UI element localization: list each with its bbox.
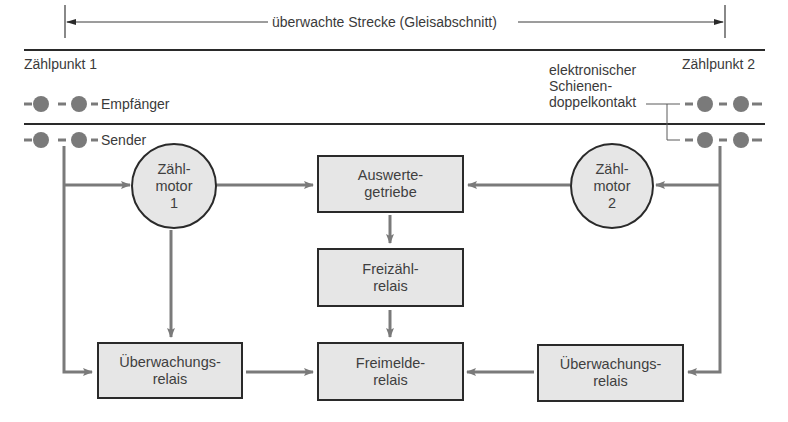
node-label: Überwachungs- bbox=[560, 356, 662, 373]
node-label: 1 bbox=[170, 195, 178, 212]
rail-contact-label: elektronischer Schienen- doppelkontakt bbox=[549, 62, 636, 110]
node-label: relais bbox=[373, 278, 408, 295]
right-receiver-sensor-2 bbox=[733, 96, 749, 112]
node-label: 2 bbox=[608, 195, 616, 212]
evaluation-gear-box: Auswerte- getriebe bbox=[317, 155, 464, 213]
node-label: Zähl- bbox=[157, 161, 190, 178]
right-receiver-sensor-1 bbox=[697, 96, 713, 112]
left-receiver-sensor-1 bbox=[33, 96, 49, 112]
counter-motor-2: Zähl- motor 2 bbox=[570, 143, 654, 229]
monitoring-relay-right-box: Überwachungs- relais bbox=[537, 344, 684, 402]
node-label: relais bbox=[153, 371, 188, 388]
free-count-relay-box: Freizähl- relais bbox=[317, 248, 464, 307]
left-sender-sensor-1 bbox=[33, 132, 49, 148]
node-label: relais bbox=[593, 373, 628, 390]
node-label: Freizähl- bbox=[362, 261, 418, 278]
node-label: Überwachungs- bbox=[119, 354, 221, 371]
contact-leader-line bbox=[646, 104, 680, 140]
node-label: Freimelde- bbox=[356, 355, 425, 372]
node-label: getriebe bbox=[364, 184, 416, 201]
counting-point-1-label: Zählpunkt 1 bbox=[24, 56, 97, 72]
counter-motor-1: Zähl- motor 1 bbox=[131, 143, 217, 229]
node-label: relais bbox=[373, 372, 408, 389]
rail-contact-label-line: elektronischer bbox=[549, 62, 636, 78]
right-sender-sensor-2 bbox=[733, 132, 749, 148]
node-label: Auswerte- bbox=[358, 167, 423, 184]
monitoring-relay-left-box: Überwachungs- relais bbox=[97, 342, 243, 399]
clear-signal-relay-box: Freimelde- relais bbox=[317, 342, 464, 401]
section-label: überwachte Strecke (Gleisabschnitt) bbox=[271, 14, 498, 30]
left-sender-sensor-2 bbox=[71, 132, 87, 148]
node-label: motor bbox=[155, 178, 192, 195]
right-sender-sensor-1 bbox=[697, 132, 713, 148]
node-label: motor bbox=[593, 178, 630, 195]
sender-label: Sender bbox=[101, 132, 146, 148]
left-receiver-sensor-2 bbox=[71, 96, 87, 112]
node-label: Zähl- bbox=[595, 161, 628, 178]
counting-point-2-label: Zählpunkt 2 bbox=[682, 56, 755, 72]
receiver-label: Empfänger bbox=[101, 96, 169, 112]
rail-contact-label-line: doppelkontakt bbox=[549, 94, 636, 110]
wire-left-to-monitoring-relay bbox=[64, 146, 92, 372]
wire-right-to-monitoring-relay bbox=[688, 146, 720, 372]
right-sensor-dashes bbox=[685, 104, 762, 140]
rail-contact-label-line: Schienen- bbox=[549, 78, 636, 94]
